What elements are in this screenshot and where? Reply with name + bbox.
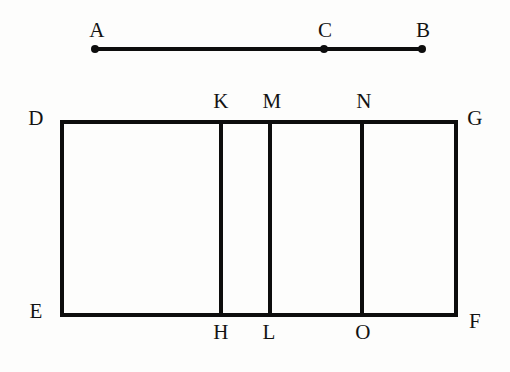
geometry-diagram: A C B D G E F K M N H L O [0, 0, 510, 372]
point-c-dot [320, 45, 328, 53]
label-b: B [409, 20, 437, 41]
rectangle-left-edge-de [60, 120, 64, 317]
point-b-dot [418, 45, 426, 53]
rectangle-top-edge-dg [60, 120, 458, 124]
label-f: F [461, 311, 489, 332]
label-h: H [207, 322, 235, 343]
rectangle-bottom-edge-ef [60, 313, 458, 317]
label-c: C [311, 20, 339, 41]
point-a-dot [91, 45, 99, 53]
rectangle-right-edge-gf [454, 120, 458, 317]
divider-line-no [360, 120, 364, 317]
segment-ab-line [95, 47, 422, 51]
label-l: L [255, 322, 283, 343]
label-m: M [258, 91, 286, 112]
label-k: K [207, 91, 235, 112]
divider-line-kh [219, 120, 223, 317]
label-e: E [22, 301, 50, 322]
label-g: G [461, 108, 489, 129]
label-d: D [22, 108, 50, 129]
label-a: A [83, 20, 111, 41]
label-o: O [349, 322, 377, 343]
divider-line-ml [268, 120, 272, 317]
label-n: N [350, 91, 378, 112]
